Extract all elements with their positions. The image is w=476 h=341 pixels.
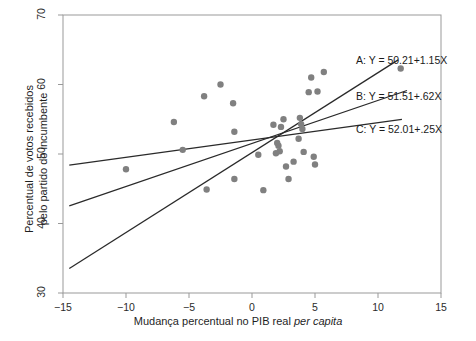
data-point [306,89,312,95]
x-tick-label: −5 [175,301,203,313]
x-tick-label: 5 [301,301,329,313]
data-point [299,126,305,132]
data-point [231,176,237,182]
data-point [277,148,283,154]
x-tick-label: −15 [49,301,77,313]
y-tick-label: 70 [35,2,47,26]
x-tick-label: 15 [427,301,455,313]
data-point [308,74,314,80]
equation-label-b: B: Y = 51.51+.62X [356,90,441,102]
data-point [260,187,266,193]
data-point [171,119,177,125]
scatter-chart-figure: 3040506070 −15−10−5051015 Percentual de … [0,0,476,341]
data-point [297,115,303,121]
data-point [203,186,209,192]
data-point [312,161,318,167]
data-point [285,176,291,182]
x-axis-title-italic: per capita [294,315,342,327]
data-point [217,81,223,87]
data-point [283,163,289,169]
data-point [230,100,236,106]
data-point [278,124,284,130]
data-point [231,129,237,135]
data-point [270,122,276,128]
data-point [255,151,261,157]
data-point [295,136,301,142]
x-axis-title-plain: Mudança percentual no PIB real [134,315,294,327]
data-point [275,142,281,148]
equation-label-a: A: Y = 50.21+1.15X [356,54,447,66]
data-point [300,149,306,155]
x-tick-label: −10 [112,301,140,313]
data-point [321,69,327,75]
regression-line-c [69,119,402,165]
data-point [180,147,186,153]
regression-line-b [69,91,407,206]
x-tick-label: 0 [238,301,266,313]
x-axis-title: Mudança percentual no PIB real per capit… [0,315,476,327]
y-axis-title-line-1: Percentual de votos recebidos [22,39,36,279]
y-axis-title: Percentual de votos recebidos pelo parti… [22,39,50,279]
data-point [201,93,207,99]
regression-line-a [69,60,398,269]
equation-label-c: C: Y = 52.01+.25X [356,123,442,135]
data-point [314,88,320,94]
data-point [280,116,286,122]
y-axis-title-line-2: pelo partido do incumbente [36,39,50,279]
plot-canvas [0,0,476,341]
x-tick-label: 10 [364,301,392,313]
y-tick-label: 30 [35,280,47,304]
data-point [290,158,296,164]
data-point [311,154,317,160]
data-point [123,166,129,172]
data-point [397,65,403,71]
